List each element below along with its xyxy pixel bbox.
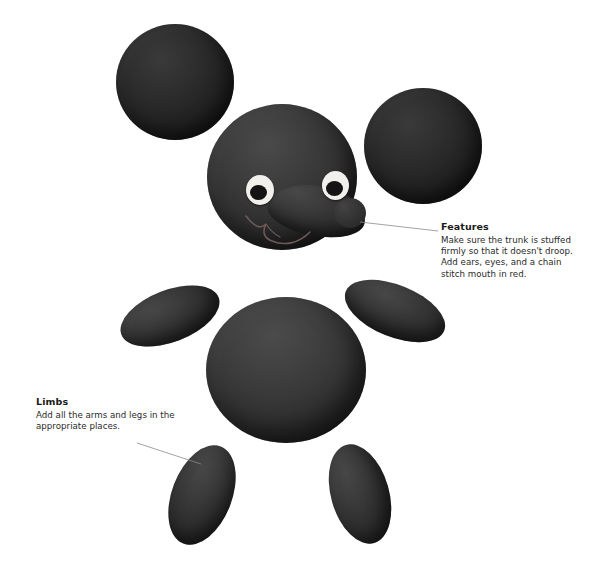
callout-features-body: Make sure the trunk is stuffed firmly so… xyxy=(441,235,611,280)
callout-features-line-4: stitch mouth in red. xyxy=(441,269,611,280)
callout-limbs-line-2: appropriate places. xyxy=(36,421,216,432)
callout-limbs-body: Add all the arms and legs in the appropr… xyxy=(36,410,216,432)
callout-features-line-3: Add ears, eyes, and a chain xyxy=(441,257,611,268)
callout-features-line-2: firmly so that it doesn't droop. xyxy=(441,246,611,257)
illustration-page: Features Make sure the trunk is stuffed … xyxy=(0,0,615,577)
callout-features-title: Features xyxy=(441,221,611,233)
callout-features-line-1: Make sure the trunk is stuffed xyxy=(441,235,611,246)
callout-limbs-line-1: Add all the arms and legs in the xyxy=(36,410,216,421)
callout-limbs: Limbs Add all the arms and legs in the a… xyxy=(36,396,216,432)
leader-line-limbs xyxy=(0,0,615,577)
callout-features: Features Make sure the trunk is stuffed … xyxy=(441,221,611,280)
callout-limbs-title: Limbs xyxy=(36,396,216,408)
